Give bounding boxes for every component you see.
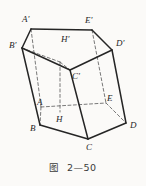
edge-Dp-Cp [70,50,112,70]
figure-page: A'E'D'B'C'H'AEDBCH 图 2—50 [0,0,146,186]
edge-C-D [88,123,126,139]
vertex-label-b-prime: B' [9,40,17,50]
vertex-label-h: H [55,114,63,124]
vertex-label-h-prime: H' [60,34,70,44]
vertex-label-c: C [86,142,93,152]
vertex-label-e-prime: E' [84,15,93,25]
edge-B-C [40,125,88,139]
edge-Bp-B [22,48,40,125]
vertex-label-c-prime: C' [72,71,81,81]
vertex-label-a: A [36,97,43,107]
figure-caption: 图 2—50 [0,160,146,174]
edge-A-B [40,107,41,125]
vertex-label-d-prime: D' [115,38,125,48]
edge-A-E [41,103,106,107]
vertex-label-a-prime: A' [21,14,30,24]
edge-Bp-Ap [22,29,31,48]
prism-diagram: A'E'D'B'C'H'AEDBCH [0,0,146,160]
edge-Cp-Bp [22,48,70,70]
vertex-label-b: B [30,123,36,133]
edge-Ap-Ep [31,29,92,30]
vertex-label-e: E [106,93,113,103]
vertex-label-d: D [129,120,137,130]
edge-Dp-D [112,50,126,123]
